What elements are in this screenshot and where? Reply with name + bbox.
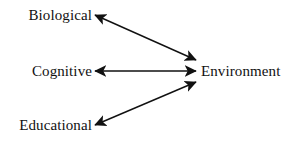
node-label-environment: Environment xyxy=(201,64,280,79)
node-label-educational: Educational xyxy=(19,118,92,133)
node-label-cognitive: Cognitive xyxy=(32,64,92,79)
node-label-biological: Biological xyxy=(29,8,93,23)
connector-biological-environment xyxy=(95,15,196,60)
connector-educational-environment xyxy=(95,82,196,125)
diagram-canvas: Biological Cognitive Educational Environ… xyxy=(0,0,297,144)
